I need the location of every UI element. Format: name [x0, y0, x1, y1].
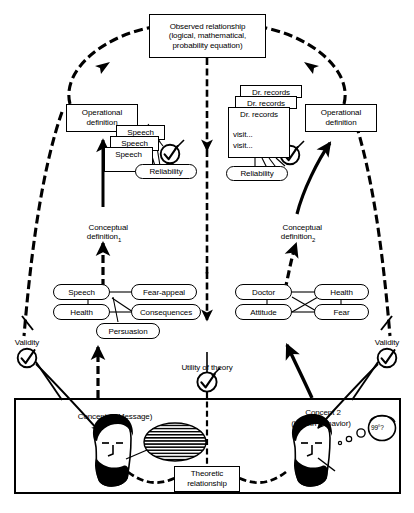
check-circle-icon-validity-left	[18, 349, 37, 368]
concept-node-health-right-label: Health	[330, 288, 353, 297]
concept-node-attitude: Attitude	[235, 304, 292, 320]
concept-node-fear: Fear	[314, 304, 369, 320]
record-card-1-visit-1: visit...	[233, 130, 253, 140]
check-circle-icon-validity-right	[378, 349, 397, 368]
check-circle-icon-reliability-left	[161, 140, 184, 163]
concept-node-attitude-label: Attitude	[250, 308, 276, 317]
concept-node-fear-appeal-label: Fear-appeal	[143, 288, 185, 297]
check-circle-icon-utility	[197, 368, 220, 392]
concept-node-doctor: Doctor	[235, 284, 292, 300]
record-card-1: Dr. records visit... visit...	[228, 107, 290, 158]
concept-node-persuasion-label: Persuasion	[108, 327, 147, 336]
operational-definition-right-box: Operational definition	[305, 104, 377, 132]
record-card-1-visit-2: visit...	[233, 141, 253, 151]
concept-node-persuasion: Persuasion	[96, 323, 160, 339]
reliability-right-oval: Reliability	[226, 166, 288, 181]
concept-node-consequences-label: Consequences	[140, 308, 192, 317]
concept-node-doctor-label: Doctor	[252, 288, 275, 297]
temperature-note: 99°?	[371, 424, 384, 431]
theoretic-relationship-label: Theoretic relationship	[187, 469, 227, 488]
concept-node-health-left: Health	[53, 304, 110, 320]
concept-node-health-right: Health	[314, 284, 369, 300]
concept-node-health-left-label: Health	[70, 308, 93, 317]
theoretic-relationship-box: Theoretic relationship	[174, 466, 240, 492]
reliability-left-oval: Reliability	[135, 164, 197, 179]
observed-relationship-label: Observed relationship (logical, mathemat…	[169, 22, 246, 51]
concept-node-consequences: Consequences	[131, 304, 201, 320]
reliability-right-label: Reliability	[240, 169, 273, 178]
concept-node-speech: Speech	[53, 284, 110, 300]
operational-definition-right-label: Operational definition	[321, 108, 361, 127]
left-vertical-chain	[98, 140, 103, 398]
speech-card-1-label: Speech	[105, 150, 152, 160]
right-vertical-chain	[285, 143, 330, 398]
observed-relationship-box: Observed relationship (logical, mathemat…	[149, 14, 266, 58]
concept-node-fear-appeal: Fear-appeal	[131, 284, 197, 300]
record-card-1-label: Dr. records	[229, 110, 289, 120]
concept-node-fear-label: Fear	[333, 308, 349, 317]
concept-node-speech-label: Speech	[68, 288, 95, 297]
reliability-left-label: Reliability	[149, 167, 182, 176]
diagram-canvas: Observed relationship (logical, mathemat…	[0, 0, 414, 513]
